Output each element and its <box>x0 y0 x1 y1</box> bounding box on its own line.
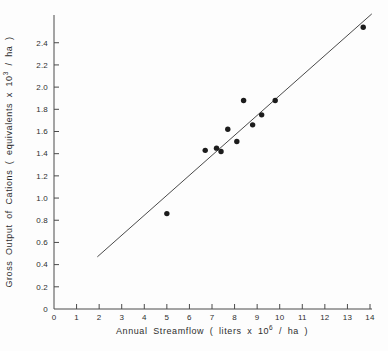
y-tick-label: 1.2 <box>36 172 48 181</box>
x-tick-label: 4 <box>142 313 147 322</box>
x-tick-label: 11 <box>298 313 307 322</box>
data-point <box>164 211 169 216</box>
x-tick-label: 9 <box>255 313 260 322</box>
x-tick-label: 8 <box>232 313 237 322</box>
regression-line <box>97 14 371 257</box>
data-point <box>234 139 239 144</box>
data-point <box>250 122 255 127</box>
x-tick-label: 13 <box>343 313 353 322</box>
y-tick-label: 2.2 <box>36 61 48 70</box>
y-tick-label: 2.0 <box>36 83 48 92</box>
x-tick-label: 3 <box>119 313 124 322</box>
y-tick-label: 2.4 <box>36 39 48 48</box>
data-point <box>214 145 219 150</box>
x-tick-label: 6 <box>187 313 192 322</box>
y-tick-label: 1.4 <box>36 149 48 158</box>
y-tick-label: 0.4 <box>36 260 48 269</box>
x-tick-label: 5 <box>165 313 170 322</box>
y-tick-label: 0.8 <box>36 216 48 225</box>
x-tick-label: 7 <box>210 313 215 322</box>
y-tick-label: 1.0 <box>36 194 48 203</box>
x-tick-label: 14 <box>365 313 375 322</box>
x-tick-label: 2 <box>97 313 102 322</box>
scanned-figure: 0123456789101112131400.20.40.60.81.01.21… <box>0 0 388 351</box>
x-tick-label: 10 <box>275 313 285 322</box>
x-tick-label: 12 <box>320 313 330 322</box>
data-point <box>203 148 208 153</box>
data-point <box>361 25 366 30</box>
y-tick-label: 1.6 <box>36 127 48 136</box>
data-point <box>241 98 246 103</box>
data-point <box>218 149 223 154</box>
x-axis-title: Annual Streamflow ( liters x 106 / ha ) <box>116 324 308 336</box>
scatter-chart: 0123456789101112131400.20.40.60.81.01.21… <box>0 0 388 351</box>
y-tick-label: 0.6 <box>36 238 48 247</box>
x-tick-label: 0 <box>52 313 57 322</box>
y-axis-title: Gross Output of Cations ( equivalents x … <box>2 36 14 287</box>
y-tick-label: 0.2 <box>36 283 48 292</box>
y-tick-label: 1.8 <box>36 105 48 114</box>
x-tick-label: 1 <box>74 313 79 322</box>
data-point <box>273 98 278 103</box>
y-tick-label: 0 <box>43 305 48 314</box>
data-point <box>225 127 230 132</box>
data-point <box>259 112 264 117</box>
